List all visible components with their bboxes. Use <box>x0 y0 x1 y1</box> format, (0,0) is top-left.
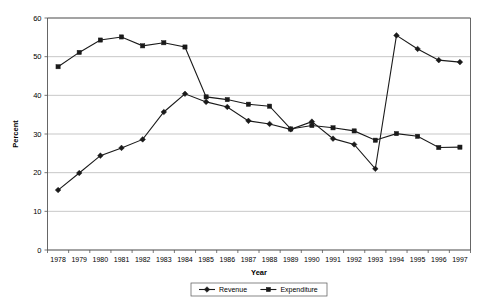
x-axis-tick-labels: 1978197919801981198219831984198519861987… <box>50 256 468 263</box>
x-tick-label: 1984 <box>177 256 193 263</box>
data-point-marker-square <box>331 126 335 130</box>
data-point-marker-square <box>225 97 229 101</box>
line-chart: 0102030405060 19781979198019811982198319… <box>0 0 487 303</box>
x-tick-label: 1996 <box>431 256 447 263</box>
data-point-marker-square <box>289 127 293 131</box>
data-point-marker-square <box>352 129 356 133</box>
x-tick-label: 1980 <box>93 256 109 263</box>
x-axis-title: Year <box>251 268 267 277</box>
series-expenditure <box>56 35 462 150</box>
data-point-marker-square <box>56 65 60 69</box>
y-tick-label: 0 <box>37 246 41 255</box>
series-line-revenue <box>58 35 460 190</box>
data-point-marker-diamond <box>246 118 252 124</box>
legend-label-revenue: Revenue <box>219 286 247 293</box>
x-tick-label: 1994 <box>389 256 405 263</box>
x-tick-label: 1993 <box>368 256 384 263</box>
data-point-marker-diamond <box>415 46 421 52</box>
y-tick-label: 20 <box>33 168 41 177</box>
x-tick-label: 1989 <box>283 256 299 263</box>
y-tick-label: 50 <box>33 52 41 61</box>
data-point-marker-square <box>266 287 270 291</box>
x-tick-label: 1986 <box>219 256 235 263</box>
data-point-marker-diamond <box>203 99 209 105</box>
x-tick-label: 1985 <box>198 256 214 263</box>
data-point-marker-diamond <box>267 121 273 127</box>
data-point-marker-square <box>141 44 145 48</box>
data-point-marker-diamond <box>436 57 442 63</box>
x-tick-label: 1983 <box>156 256 172 263</box>
y-tick-label: 40 <box>33 91 41 100</box>
data-point-marker-square <box>119 35 123 39</box>
x-tick-label: 1979 <box>71 256 87 263</box>
x-tick-label: 1997 <box>452 256 468 263</box>
x-tick-label: 1995 <box>410 256 426 263</box>
x-tick-label: 1981 <box>114 256 130 263</box>
data-point-marker-square <box>437 145 441 149</box>
x-tick-label: 1982 <box>135 256 151 263</box>
chart-container: 0102030405060 19781979198019811982198319… <box>0 0 487 303</box>
data-point-marker-square <box>183 45 187 49</box>
data-point-marker-diamond <box>224 104 230 110</box>
y-tick-label: 10 <box>33 207 41 216</box>
data-point-marker-square <box>310 123 314 127</box>
data-point-marker-square <box>98 38 102 42</box>
data-point-marker-square <box>246 102 250 106</box>
gridlines-group <box>48 18 471 250</box>
y-tick-label: 30 <box>33 130 41 139</box>
x-tick-label: 1992 <box>346 256 362 263</box>
data-point-marker-diamond <box>119 145 125 151</box>
x-tick-label: 1987 <box>241 256 257 263</box>
data-point-marker-square <box>204 95 208 99</box>
x-tick-label: 1991 <box>325 256 341 263</box>
data-point-marker-square <box>162 41 166 45</box>
data-point-marker-square <box>458 145 462 149</box>
data-point-marker-square <box>267 104 271 108</box>
data-point-marker-square <box>394 132 398 136</box>
x-tick-label: 1978 <box>50 256 66 263</box>
data-point-marker-square <box>416 134 420 138</box>
x-tick-label: 1990 <box>304 256 320 263</box>
y-axis-tick-labels: 0102030405060 <box>33 14 41 255</box>
y-tick-label: 60 <box>33 14 41 23</box>
data-point-marker-diamond <box>457 59 463 65</box>
data-point-marker-square <box>373 138 377 142</box>
data-point-marker-square <box>77 50 81 54</box>
x-tick-marks <box>48 250 471 253</box>
data-point-marker-diamond <box>394 33 400 39</box>
y-axis-title: Percent <box>11 120 20 148</box>
series-line-expenditure <box>58 37 460 148</box>
legend-label-expenditure: Expenditure <box>280 286 317 294</box>
x-tick-label: 1988 <box>262 256 278 263</box>
chart-legend: RevenueExpenditure <box>191 283 327 296</box>
